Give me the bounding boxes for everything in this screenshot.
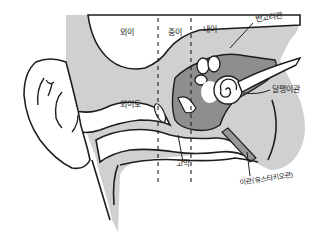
label-ear-canal: 외이도 <box>120 101 141 109</box>
label-eardrum: 고막 <box>176 160 190 168</box>
label-outer-ear: 외이 <box>120 29 134 37</box>
ear-anatomy-diagram <box>0 0 321 243</box>
label-inner-ear: 내이 <box>203 26 217 34</box>
label-middle-ear: 중이 <box>168 29 182 37</box>
label-cochlea: 달팽이관 <box>272 86 300 94</box>
cochlea <box>214 76 242 104</box>
